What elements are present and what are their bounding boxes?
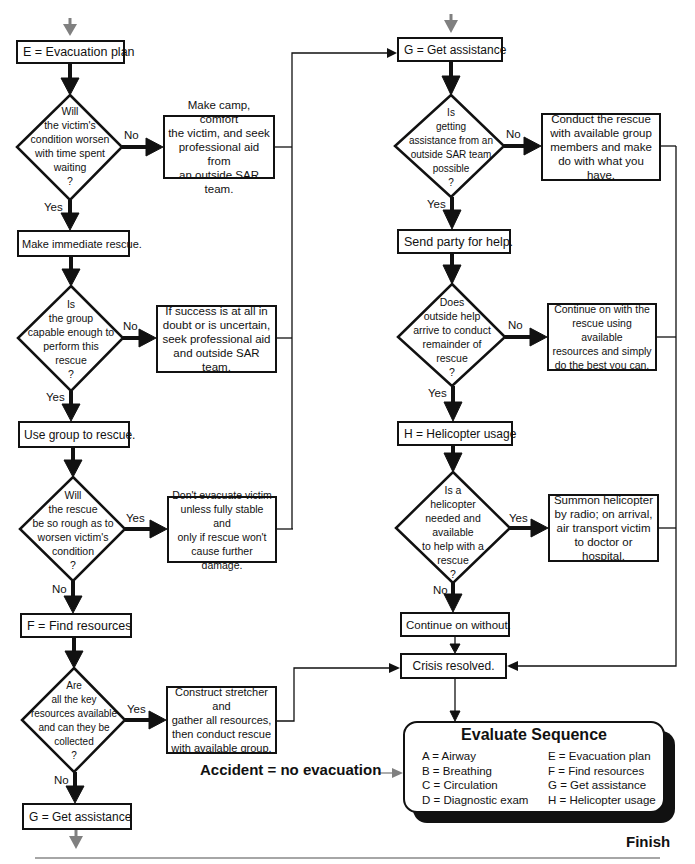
evaluate-sequence-list-right: E = Evacuation plan F = Find resources G… (548, 749, 656, 807)
action-make-camp: Make camp, comfort the victim, and seek … (163, 115, 275, 179)
arrowhead-into-crisis-left (389, 663, 400, 673)
label-no: No (506, 128, 521, 140)
label-no: No (54, 774, 69, 786)
label-no: No (508, 319, 523, 331)
exit-arrow-left (69, 830, 83, 849)
decision-text-group-capable: Is the group capable enough to perform t… (21, 297, 121, 381)
decision-text-victim-worsen: Will the victim's condition worsen with … (20, 104, 120, 188)
action-seek-professional-aid: If success is at all in doubt or is unce… (156, 305, 277, 373)
finish-label: Finish (626, 833, 670, 850)
decision-text-outside-help-arrives: Does outside help arrive to conduct rema… (402, 295, 502, 379)
evaluate-sequence-title: Evaluate Sequence (405, 726, 663, 744)
label-no: No (123, 320, 138, 332)
sequence-item-c: C = Circulation (422, 778, 528, 793)
accident-note: Accident = no evacuation (200, 761, 381, 778)
sequence-item-h: H = Helicopter usage (548, 793, 656, 808)
action-dont-evacuate: Don't evacuate victim unless fully stabl… (167, 496, 277, 563)
step-make-immediate-rescue: Make immediate rescue. (17, 230, 130, 257)
construct-to-crisis-connector (277, 668, 392, 721)
sequence-item-f: F = Find resources (548, 764, 656, 779)
sequence-item-a: A = Airway (422, 749, 528, 764)
label-no: No (433, 584, 448, 596)
entry-arrow-left (63, 18, 77, 36)
step-evacuation-plan: E = Evacuation plan (16, 40, 125, 64)
sequence-item-b: B = Breathing (422, 764, 528, 779)
label-yes: Yes (46, 391, 65, 403)
evaluate-sequence-box: Evaluate Sequence A = Airway B = Breathi… (403, 721, 665, 813)
sequence-item-g: G = Get assistance (548, 778, 656, 793)
decision-text-rescue-rough: Will the rescue be so rough as to worsen… (23, 488, 123, 572)
arrowhead-into-get-assistance (387, 48, 397, 58)
label-yes: Yes (428, 387, 447, 399)
step-get-assistance-bottom: G = Get assistance (22, 803, 132, 830)
decision-text-outside-sar-possible: Is getting assistance from an outside SA… (401, 106, 501, 190)
sequence-item-d: D = Diagnostic exam (422, 793, 528, 808)
label-no: No (124, 129, 139, 141)
label-no: No (52, 583, 67, 595)
step-get-assistance: G = Get assistance (397, 37, 503, 62)
evaluate-sequence-list-left: A = Airway B = Breathing C = Circulation… (422, 749, 528, 807)
action-conduct-rescue: Conduct the rescue with available group … (541, 113, 661, 181)
step-crisis-resolved: Crisis resolved. (400, 653, 507, 679)
label-yes: Yes (127, 703, 146, 715)
action-construct-stretcher: Construct stretcher and gather all resou… (166, 686, 277, 754)
action-continue-with-available: Continue on with the rescue using availa… (547, 303, 657, 371)
step-continue-without: Continue on without. (400, 612, 510, 637)
step-use-group-to-rescue: Use group to rescue. (18, 421, 130, 448)
sequence-item-e: E = Evacuation plan (548, 749, 656, 764)
step-send-party: Send party for help. (397, 229, 511, 254)
right-branch-arrows (504, 137, 548, 537)
accident-arrow (378, 768, 403, 778)
left-to-get-assistance-connector (275, 53, 390, 529)
label-yes: Yes (509, 512, 528, 524)
entry-arrow-right (444, 14, 458, 33)
label-yes: Yes (427, 198, 446, 210)
decision-text-resources-available: Are all the key resources available and … (24, 679, 124, 763)
step-helicopter-usage: H = Helicopter usage (397, 421, 513, 446)
action-summon-helicopter: Summon helicopter by radio; on arrival, … (548, 494, 659, 562)
decision-text-helicopter-needed: Is a helicopter needed and available to … (403, 483, 503, 581)
right-to-crisis-connector (516, 146, 676, 666)
step-find-resources: F = Find resources (20, 613, 132, 638)
label-yes: Yes (44, 201, 63, 213)
arrowhead-into-crisis-right (507, 661, 518, 671)
label-yes: Yes (126, 512, 145, 524)
